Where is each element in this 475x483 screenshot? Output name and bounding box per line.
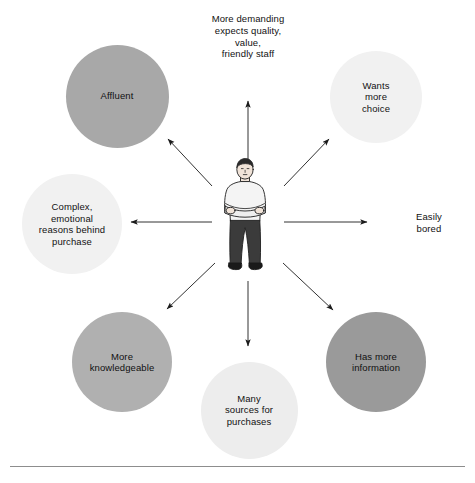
node-many-sources-for-purchases[interactable]: Many sources for purchases (201, 362, 298, 459)
arrow-down-right (283, 263, 333, 310)
top-caption: More demanding expects quality, value, f… (183, 13, 313, 60)
node-has-more-information[interactable]: Has more information (326, 312, 426, 412)
arrow-up-right (284, 139, 329, 186)
node-affluent[interactable]: Affluent (66, 45, 169, 148)
node-more-knowledgeable-label: More knowledgeable (86, 351, 159, 374)
node-has-more-information-label: Has more information (348, 351, 404, 374)
node-easily-bored[interactable]: Easily bored (394, 211, 464, 234)
node-affluent-label: Affluent (97, 90, 138, 102)
node-wants-more-choice-label: Wants more choice (358, 80, 394, 115)
node-complex-emotional-reasons-label: Complex, emotional reasons behind purcha… (35, 201, 109, 247)
arrow-up-left (168, 139, 212, 186)
node-more-knowledgeable[interactable]: More knowledgeable (72, 312, 172, 412)
central-figure-standing-man-icon (212, 157, 278, 275)
node-wants-more-choice[interactable]: Wants more choice (330, 51, 422, 143)
node-many-sources-for-purchases-label: Many sources for purchases (221, 393, 277, 428)
bottom-divider (10, 466, 465, 467)
diagram-canvas: Affluent Wants more choice Complex, emot… (0, 0, 475, 483)
node-complex-emotional-reasons[interactable]: Complex, emotional reasons behind purcha… (22, 174, 122, 274)
arrow-down-left (167, 263, 215, 309)
